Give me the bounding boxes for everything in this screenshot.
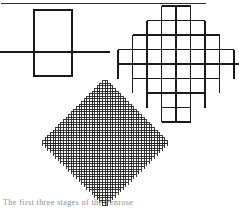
figure-caption-text: The first three stages of the Penrose xyxy=(3,198,235,207)
stage-1-square xyxy=(34,10,72,76)
figure-stage-1 xyxy=(34,10,72,76)
figure-caption-clipped: The first three stages of the Penrose xyxy=(0,198,239,211)
penrose-stages-diagram xyxy=(0,0,239,211)
figure-page: The first three stages of the Penrose xyxy=(0,0,239,211)
